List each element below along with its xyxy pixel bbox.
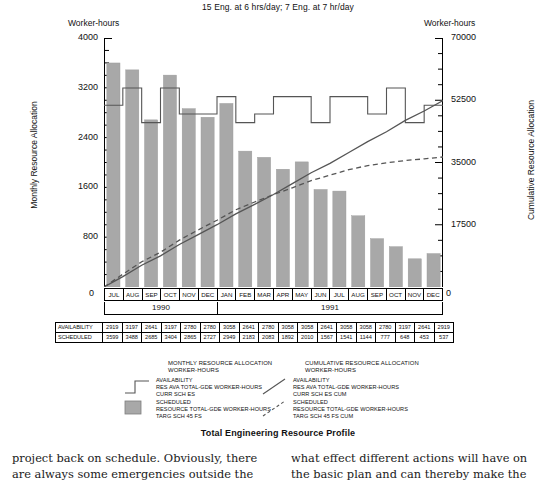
body-column-left: project back on schedule. Obviously, the… <box>12 450 265 482</box>
y-tick-right-17500: 17500 <box>451 219 497 229</box>
bar <box>408 259 421 287</box>
legend-line: TARG SCH 45 FS CUM <box>293 413 408 420</box>
bar <box>144 120 157 287</box>
month-cell: DEC <box>199 289 218 300</box>
month-axis-row: JULAUGSEPOCTNOVDECJANFEBMARAPRMAYJUNJULA… <box>104 288 443 301</box>
legend-right-title-line2: WORKER-HOURS <box>305 367 419 374</box>
bar <box>126 70 139 287</box>
table-cell: 2641 <box>142 323 162 333</box>
bar <box>427 254 440 287</box>
y-tick-left-3200: 3200 <box>58 82 98 92</box>
month-cell: JUL <box>105 289 124 300</box>
table-row: SCHEDULED3599348826853404286527272949218… <box>56 333 454 343</box>
bar <box>107 63 120 287</box>
table-cell: 3058 <box>337 323 357 333</box>
table-cell: 2780 <box>376 323 396 333</box>
y-tick-left-1600: 1600 <box>58 181 98 191</box>
legend-line: CURR SCH ES <box>156 391 262 398</box>
table-cell: 3058 <box>278 323 298 333</box>
solid-line-icon <box>261 377 287 399</box>
figure-root: 15 Eng. at 6 hrs/day; 7 Eng. at 7 hr/day… <box>0 0 556 482</box>
month-cell: MAY <box>293 289 312 300</box>
bar <box>352 216 365 287</box>
legend-entry-availability-monthly: AVAILABILITY RES AVA TOTAL-GDE WORKER-HO… <box>124 377 271 399</box>
month-cell: JAN <box>218 289 237 300</box>
y-axis-title-left: Monthly Resource Allocation <box>29 75 39 235</box>
legend-right-heading: CUMULATIVE RESOURCE ALLOCATION WORKER-HO… <box>305 360 419 374</box>
figure-title: Total Engineering Resource Profile <box>0 428 556 438</box>
table-row-header: AVAILABILITY <box>56 323 103 333</box>
table-row: AVAILABILITY2919319726413197278027803058… <box>56 323 454 333</box>
table-cell: 1892 <box>278 333 298 343</box>
month-cell: SEP <box>368 289 387 300</box>
bar <box>333 191 346 287</box>
table-cell: 2780 <box>200 323 220 333</box>
table-cell: 1144 <box>356 333 376 343</box>
table-cell: 3197 <box>122 323 142 333</box>
table-cell: 2641 <box>415 323 435 333</box>
y-tick-left-4000: 4000 <box>58 32 98 42</box>
legend-left-entries: AVAILABILITY RES AVA TOTAL-GDE WORKER-HO… <box>124 377 271 421</box>
table-cell: 1567 <box>317 333 337 343</box>
bar <box>201 117 214 287</box>
legend-line: RES AVA TOTAL-GDE WORKER-HOURS <box>156 384 262 391</box>
chart-subtitle: 15 Eng. at 6 hrs/day; 7 Eng. at 7 hr/day <box>0 2 556 12</box>
legend-line: SCHEDULED <box>156 399 271 406</box>
table-cell: 537 <box>434 333 454 343</box>
table-cell: 2865 <box>181 333 201 343</box>
legend-right-entries: AVAILABILITY RES AVA TOTAL-GDE WORKER-HO… <box>261 377 408 421</box>
legend-entry-scheduled-monthly-text: SCHEDULED RESOURCE TOTAL-GDE WORKER-HOUR… <box>156 399 271 420</box>
month-cell: MAR <box>255 289 274 300</box>
table-cell: 2919 <box>103 323 123 333</box>
year-cell: 1990 <box>105 302 218 314</box>
table-cell: 3197 <box>161 323 181 333</box>
table-cell: 3058 <box>298 323 318 333</box>
legend-entry-availability-cumulative-text: AVAILABILITY RES AVA TOTAL-GDE WORKER-HO… <box>293 377 399 398</box>
y-tick-left-0: 0 <box>89 288 94 298</box>
y-tick-right-35000: 35000 <box>451 157 497 167</box>
table-cell: 648 <box>395 333 415 343</box>
dashed-line-icon <box>261 399 287 421</box>
month-cell: SEP <box>143 289 162 300</box>
bar <box>370 239 383 287</box>
worker-hours-label-right: Worker-hours <box>424 18 475 28</box>
table-cell: 2183 <box>239 333 259 343</box>
legend-entry-scheduled-monthly: SCHEDULED RESOURCE TOTAL-GDE WORKER-HOUR… <box>124 399 271 421</box>
bar <box>239 151 252 287</box>
table-cell: 2685 <box>142 333 162 343</box>
month-cell: OCT <box>161 289 180 300</box>
table-cell: 3599 <box>103 333 123 343</box>
legend-entry-availability-cumulative: AVAILABILITY RES AVA TOTAL-GDE WORKER-HO… <box>261 377 408 399</box>
bar <box>314 189 327 287</box>
month-cell: OCT <box>387 289 406 300</box>
legend-line: CURR SCH ES CUM <box>293 391 399 398</box>
table-cell: 2919 <box>434 323 454 333</box>
legend-line: AVAILABILITY <box>156 377 262 384</box>
legend-entry-availability-monthly-text: AVAILABILITY RES AVA TOTAL-GDE WORKER-HO… <box>156 377 262 398</box>
data-table: AVAILABILITY2919319726413197278027803058… <box>55 322 454 343</box>
table-cell: 453 <box>415 333 435 343</box>
worker-hours-label-left: Worker-hours <box>68 18 119 28</box>
bar <box>257 157 270 287</box>
legend-left-heading: MONTHLY RESOURCE ALLOCATION WORKER-HOURS <box>168 360 272 374</box>
legend-line: RESOURCE TOTAL-GDE WORKER-HOURS <box>293 406 408 413</box>
chart-svg <box>104 38 443 287</box>
legend-line: RES AVA TOTAL-GDE WORKER-HOURS <box>293 384 399 391</box>
bar <box>220 103 233 287</box>
chart-plot-area <box>104 38 443 287</box>
legend-entry-scheduled-cumulative-text: SCHEDULED RESOURCE TOTAL-GDE WORKER-HOUR… <box>293 399 408 420</box>
y-tick-left-2400: 2400 <box>58 132 98 142</box>
table-cell: 2641 <box>239 323 259 333</box>
legend-right-title-line1: CUMULATIVE RESOURCE ALLOCATION <box>305 360 419 367</box>
step-line-icon <box>124 377 150 399</box>
table-cell: 3197 <box>395 323 415 333</box>
y-tick-right-52500: 52500 <box>451 94 497 104</box>
y-tick-left-800: 800 <box>58 231 98 241</box>
legend-line: SCHEDULED <box>293 399 408 406</box>
legend-entry-scheduled-cumulative: SCHEDULED RESOURCE TOTAL-GDE WORKER-HOUR… <box>261 399 408 421</box>
month-cell: APR <box>274 289 293 300</box>
year-cell: 1991 <box>218 302 442 314</box>
legend-line: AVAILABILITY <box>293 377 399 384</box>
month-cell: AUG <box>124 289 143 300</box>
table-cell: 3058 <box>356 323 376 333</box>
